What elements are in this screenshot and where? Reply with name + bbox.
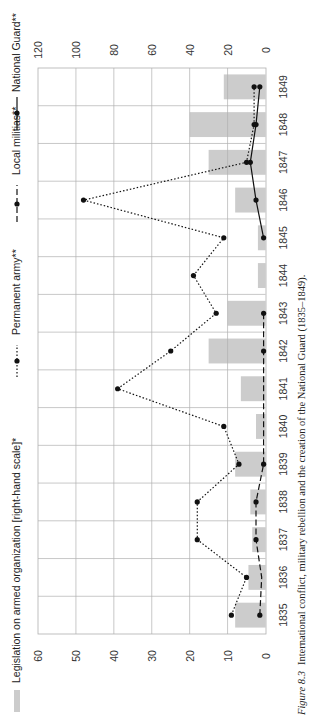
national-guard-marker [257, 84, 262, 89]
permanent-army-marker [168, 348, 173, 353]
right-axis-tick-label: 0 [260, 47, 272, 53]
national-guard-marker [253, 122, 258, 127]
permanent-army-marker [115, 386, 120, 391]
legend-label-militias: Local militias** [10, 107, 22, 175]
year-label: 1838 [277, 490, 289, 514]
legend-marker-icon [14, 358, 19, 363]
caption-text: International conflict, military rebelli… [296, 275, 308, 665]
left-axis-tick-label: 10 [222, 650, 234, 662]
legend-bar-swatch [14, 690, 20, 712]
year-label: 1845 [277, 226, 289, 250]
left-axis-ticks: 6050403020100 [32, 650, 272, 662]
year-label: 1840 [277, 415, 289, 439]
permanent-army-marker [195, 499, 200, 504]
permanent-army-marker [81, 197, 86, 202]
right-axis-tick-label: 60 [146, 44, 158, 56]
national-guard-marker [261, 235, 266, 240]
left-axis-tick-label: 60 [32, 650, 44, 662]
local-militias-marker [253, 537, 258, 542]
svg-text:Figure 8.3International confli: Figure 8.3International conflict, milita… [296, 275, 308, 716]
legislation-bar [209, 150, 266, 175]
legend-label-legislation: Legislation on armed organization [right… [10, 438, 22, 683]
left-axis-tick-label: 20 [184, 650, 196, 662]
year-label: 1843 [277, 301, 289, 325]
year-label: 1835 [277, 603, 289, 627]
chart-figure: 6050403020100 120100806040200 1835183618… [0, 0, 317, 719]
legend-item-army: Permanent army** [10, 249, 22, 377]
year-label: 1848 [277, 113, 289, 137]
permanent-army-marker [191, 273, 196, 278]
year-label: 1844 [277, 264, 289, 288]
caption-figure-label: Figure 8.3 [296, 671, 307, 716]
year-label: 1842 [277, 339, 289, 363]
right-axis-tick-label: 40 [184, 44, 196, 56]
permanent-army-marker [195, 537, 200, 542]
permanent-army-marker [244, 575, 249, 580]
legend-item-legislation: Legislation on armed organization [right… [10, 438, 22, 712]
year-labels: 1835183618371838183918401841184218431844… [277, 75, 289, 627]
national-guard-marker [248, 160, 253, 165]
permanent-army-marker [236, 462, 241, 467]
year-label: 1846 [277, 188, 289, 212]
right-axis-tick-label: 100 [70, 41, 82, 59]
year-label: 1841 [277, 377, 289, 401]
year-label: 1839 [277, 452, 289, 476]
local-militias-marker [261, 462, 266, 467]
year-label: 1847 [277, 150, 289, 174]
legend-marker-icon [14, 201, 19, 206]
national-guard-marker [253, 197, 258, 202]
year-label: 1849 [277, 75, 289, 99]
legislation-bar [241, 376, 266, 401]
local-militias-marker [261, 311, 266, 316]
legislation-bar [248, 565, 265, 590]
local-militias-marker [253, 499, 258, 504]
right-axis-tick-label: 20 [222, 44, 234, 56]
figure-caption: Figure 8.3International conflict, milita… [296, 275, 308, 716]
left-axis-tick-label: 30 [146, 650, 158, 662]
left-axis-tick-label: 40 [108, 650, 120, 662]
legend-label-army: Permanent army** [10, 249, 22, 335]
right-axis-ticks: 120100806040200 [32, 41, 272, 59]
year-label: 1837 [277, 528, 289, 552]
legend-label-guard: National Guard** [10, 13, 22, 92]
legislation-bar [228, 301, 266, 326]
local-militias-marker [257, 613, 262, 618]
right-axis-tick-label: 120 [32, 41, 44, 59]
year-label: 1836 [277, 566, 289, 590]
legislation-bar [235, 188, 265, 213]
permanent-army-marker [221, 424, 226, 429]
permanent-army-marker [214, 311, 219, 316]
left-axis-tick-label: 50 [70, 650, 82, 662]
permanent-army-marker [252, 84, 257, 89]
legend-marker-icon [14, 110, 19, 115]
left-axis-tick-label: 0 [260, 653, 272, 659]
legend: Legislation on armed organization [right… [10, 13, 22, 712]
legend-item-militias: Local militias** [10, 107, 22, 222]
legislation-bar [209, 339, 266, 364]
legislation-bar [258, 263, 266, 288]
right-axis-tick-label: 80 [108, 44, 120, 56]
local-militias-marker [261, 348, 266, 353]
permanent-army-marker [229, 613, 234, 618]
permanent-army-marker [221, 235, 226, 240]
